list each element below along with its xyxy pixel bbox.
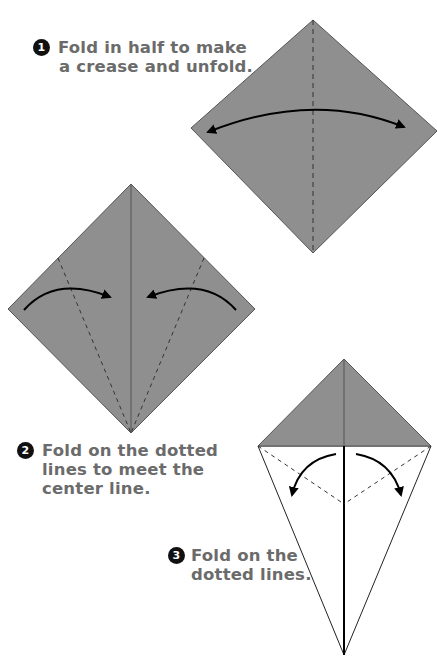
step-number-badge: 2	[17, 442, 34, 459]
figure-step-3	[258, 359, 431, 655]
step-2-instruction: 2 Fold on the dotted lines to meet the c…	[42, 441, 218, 498]
instruction-line: Fold on the dotted	[42, 441, 218, 460]
step-3-instruction: 3 Fold on the dotted lines.	[191, 546, 312, 584]
step-1-instruction: 1 Fold in half to make a crease and unfo…	[58, 38, 253, 76]
instruction-line: dotted lines.	[191, 565, 312, 584]
instruction-line: lines to meet the	[42, 460, 218, 479]
instruction-line: Fold in half to make	[58, 38, 253, 57]
instruction-line: Fold on the	[191, 546, 312, 565]
instruction-line: a crease and unfold.	[59, 57, 253, 76]
step-number-badge: 1	[33, 39, 50, 56]
figure-step-2	[8, 184, 255, 433]
step-number-badge: 3	[168, 547, 185, 564]
instruction-line: center line.	[42, 479, 218, 498]
